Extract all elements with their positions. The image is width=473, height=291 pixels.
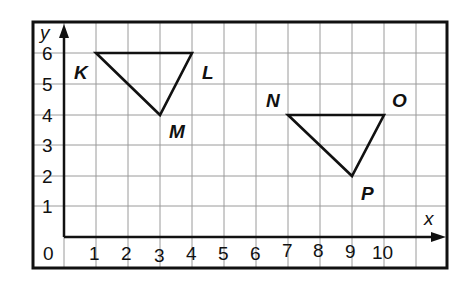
y-tick: 1 (42, 196, 53, 217)
origin-label: 0 (43, 243, 54, 264)
x-axis-label: x (423, 208, 435, 229)
vertex-label-p: P (361, 183, 374, 204)
axes (59, 24, 446, 242)
y-tick-labels: 6 5 4 3 2 1 (42, 43, 53, 217)
triangle-klm: K L M (74, 53, 214, 142)
x-axis-arrow-icon (431, 232, 446, 242)
x-tick: 2 (121, 243, 132, 264)
y-tick: 6 (42, 43, 53, 64)
vertex-label-o: O (392, 90, 407, 111)
y-axis-arrow-icon (59, 24, 69, 38)
x-tick: 10 (372, 242, 393, 263)
x-tick: 6 (250, 243, 261, 264)
x-tick: 1 (89, 243, 100, 264)
y-tick: 4 (42, 105, 53, 126)
x-tick-labels: 0 1 2 3 4 5 6 7 8 9 10 (43, 240, 393, 266)
x-tick: 8 (313, 240, 324, 261)
y-tick: 3 (42, 135, 53, 156)
vertex-label-m: M (169, 121, 186, 142)
x-tick: 9 (345, 241, 356, 262)
vertex-label-n: N (266, 90, 281, 111)
grid-lines (33, 22, 447, 268)
y-axis-label: y (38, 22, 51, 43)
x-tick: 4 (186, 243, 197, 264)
vertex-label-l: L (202, 62, 214, 83)
x-tick: 3 (154, 245, 165, 266)
x-tick: 7 (282, 240, 293, 261)
x-tick: 5 (218, 243, 229, 264)
y-tick: 5 (42, 74, 53, 95)
vertex-label-k: K (74, 62, 89, 83)
coordinate-grid-figure: y x 6 5 4 3 2 1 0 1 2 3 4 5 6 7 8 9 10 K… (0, 0, 473, 291)
y-tick: 2 (42, 166, 53, 187)
triangle-nop: N O P (266, 90, 407, 204)
